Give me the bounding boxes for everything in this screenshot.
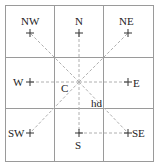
label-center: C	[61, 83, 68, 94]
label-n: N	[75, 16, 83, 27]
label-distance: hd	[91, 98, 102, 109]
label-s: S	[75, 140, 81, 151]
dashed-rays	[30, 33, 128, 133]
label-ne: NE	[119, 16, 134, 27]
label-se: SE	[132, 128, 145, 139]
plus-icon-n	[75, 29, 83, 37]
label-nw: NW	[21, 16, 39, 27]
plus-icon-e	[124, 78, 132, 86]
label-w: W	[13, 77, 23, 88]
plus-icon-w	[26, 78, 34, 86]
label-e: E	[133, 78, 140, 89]
label-sw: SW	[8, 128, 25, 139]
plus-icon-s	[75, 129, 83, 137]
